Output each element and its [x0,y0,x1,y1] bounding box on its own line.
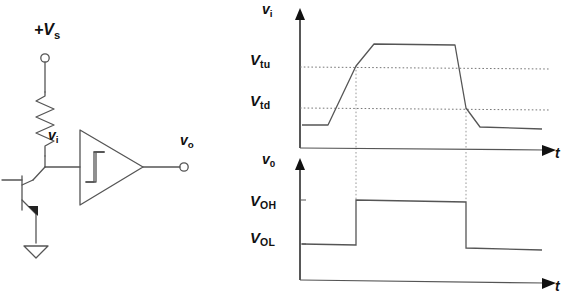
output-axis-label: v0 [262,152,275,166]
transistor-arrow-layer [0,0,250,306]
output-plot-group [295,152,556,289]
output-time-axis-label: t [555,279,560,293]
lower-threshold-label: Vtd [250,93,270,108]
circuit-input-label: vi [48,128,59,142]
waveform-plots: vi Vtu Vtd t v0 VOH VOL t [250,0,584,306]
input-y-axis-arrowhead [295,8,305,20]
input-x-axis [300,148,546,150]
emitter-arrowhead [28,206,38,216]
output-x-axis-arrowhead [542,278,556,289]
input-waveform-trace [302,44,542,129]
output-x-axis [300,280,546,283]
input-time-axis-label: t [555,146,560,160]
output-waveform-trace [302,200,542,250]
upper-threshold-label: Vtu [250,52,270,67]
circuit-schematic: +Vs vi vo [0,0,250,306]
input-x-axis-arrowhead [542,145,556,156]
input-axis-label: vi [262,2,273,16]
waveform-svg [250,0,584,306]
output-low-label: VOL [250,230,275,245]
input-plot-group [295,8,556,156]
upper-threshold-line [300,67,550,69]
output-high-label: VOH [250,193,276,208]
supply-label: +Vs [34,22,60,38]
figure-root: +Vs vi vo [0,0,584,306]
lower-threshold-line [300,108,550,110]
output-y-axis-arrowhead [295,158,305,170]
circuit-output-label: vo [180,133,194,147]
